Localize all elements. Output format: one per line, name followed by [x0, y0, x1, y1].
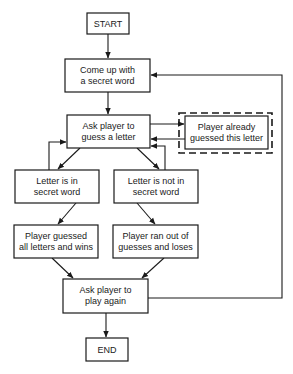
node-ask-play-again: Ask player to play again [63, 279, 148, 313]
node-loses-line-1: Player ran out of [122, 231, 189, 241]
edge-not-in-word-to-loses [137, 203, 155, 224]
node-end-label: END [97, 345, 117, 355]
node-not-in-word-line-1: Letter is not in [128, 176, 185, 186]
edge-loses-to-play-again [142, 258, 164, 278]
node-player-already-guessed: Player already guessed this letter [179, 113, 272, 153]
node-already-line-1: Player already [198, 122, 256, 132]
node-in-word-line-1: Letter is in [36, 176, 78, 186]
node-wins-line-1: Player guessed [25, 231, 87, 241]
node-secret-line-2: a secret word [80, 76, 134, 86]
node-ask-guess-line-2: guess a letter [81, 132, 135, 142]
node-play-again-line-1: Ask player to [79, 285, 131, 295]
edge-ask-guess-to-in-word [58, 148, 80, 169]
node-start: START [87, 13, 129, 34]
node-letter-not-in-word: Letter is not in secret word [114, 170, 198, 203]
node-start-label: START [94, 19, 123, 29]
node-secret-line-1: Come up with [80, 65, 135, 75]
node-play-again-line-2: play again [85, 296, 126, 306]
hangman-flowchart: START Come up with a secret word Ask pla… [0, 0, 293, 374]
node-player-wins: Player guessed all letters and wins [14, 225, 98, 258]
edge-in-word-to-ask-guess [49, 142, 66, 170]
node-ask-player-to-guess: Ask player to guess a letter [67, 115, 150, 148]
node-letter-in-word: Letter is in secret word [15, 170, 99, 203]
node-loses-line-2: guesses and loses [118, 242, 193, 252]
node-player-loses: Player ran out of guesses and loses [113, 225, 198, 258]
node-end: END [86, 338, 128, 361]
node-wins-line-2: all letters and wins [19, 242, 94, 252]
edge-not-in-word-to-ask-guess [151, 146, 165, 170]
edge-ask-guess-to-not-in-word [137, 148, 159, 169]
node-in-word-line-2: secret word [34, 187, 81, 197]
edge-in-word-to-wins [58, 203, 76, 224]
node-not-in-word-line-2: secret word [133, 187, 180, 197]
node-already-line-2: guessed this letter [190, 133, 263, 143]
node-come-up-with-secret-word: Come up with a secret word [65, 59, 150, 92]
node-ask-guess-line-1: Ask player to [82, 121, 134, 131]
edge-wins-to-play-again [52, 258, 73, 278]
